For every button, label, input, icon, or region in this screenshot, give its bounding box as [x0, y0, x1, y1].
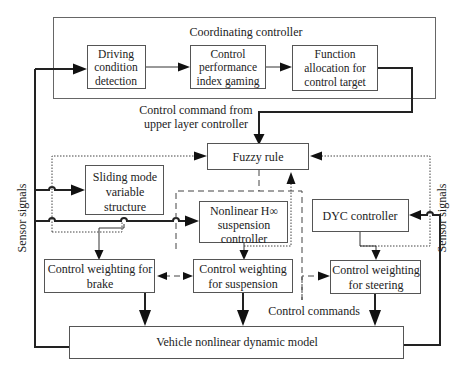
svg-text:Control weighting: Control weighting — [332, 263, 420, 277]
dyc-controller-label: DYC controller — [323, 209, 398, 223]
svg-text:detection: detection — [95, 75, 137, 87]
svg-text:upper layer controller: upper layer controller — [144, 117, 248, 131]
svg-text:condition: condition — [94, 61, 138, 73]
svg-text:structure: structure — [104, 200, 146, 214]
svg-text:Driving: Driving — [98, 48, 134, 61]
svg-text:control target: control target — [304, 76, 366, 89]
svg-text:for suspension: for suspension — [208, 277, 278, 291]
fuzzy-rule-label: Fuzzy rule — [233, 150, 284, 164]
coordinating-controller-group: Coordinating controller Driving conditio… — [54, 18, 436, 99]
svg-text:for steering: for steering — [349, 278, 404, 292]
svg-text:variable: variable — [106, 185, 145, 199]
svg-text:suspension: suspension — [218, 218, 271, 232]
svg-text:Control weighting: Control weighting — [199, 262, 287, 276]
svg-text:Nonlinear H∞: Nonlinear H∞ — [210, 204, 278, 218]
vehicle-model-label: Vehicle nonlinear dynamic model — [156, 335, 318, 349]
svg-text:brake: brake — [87, 277, 114, 291]
svg-text:performance: performance — [199, 61, 257, 74]
svg-text:Function: Function — [315, 48, 356, 60]
svg-text:allocation for: allocation for — [304, 62, 366, 74]
control-commands-label: Control commands — [268, 304, 360, 318]
svg-text:Sliding mode: Sliding mode — [93, 170, 157, 184]
svg-text:Control: Control — [210, 48, 245, 60]
svg-text:index gaming: index gaming — [197, 75, 260, 88]
svg-text:Control weighting for: Control weighting for — [48, 262, 153, 276]
coordinating-title: Coordinating controller — [190, 25, 303, 39]
sensor-signals-right: Sensor signals — [435, 183, 449, 252]
control-command-label: Control command from — [139, 103, 253, 117]
diagram-canvas: Coordinating controller Driving conditio… — [0, 0, 475, 371]
sensor-signals-left: Sensor signals — [15, 183, 29, 252]
